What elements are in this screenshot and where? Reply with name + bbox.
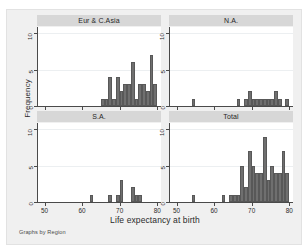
x-axis-tick-label: 60 xyxy=(79,207,86,214)
y-axis-tick-label: 10 xyxy=(159,129,166,136)
panel-title: Total xyxy=(169,111,293,122)
y-axis-tick-label: 0 xyxy=(159,202,166,205)
y-axis-tick-label: 10 xyxy=(27,33,34,40)
bar-series xyxy=(169,123,293,203)
histogram-bar xyxy=(108,195,112,202)
plot-area xyxy=(37,123,161,203)
y-axis-tick-label: 0 xyxy=(27,106,34,109)
histogram-bar xyxy=(222,195,226,202)
y-axis-tick: 10 xyxy=(166,129,169,130)
panel-grid: Eur & C.Asia0510N.A.0510S.A.051050607080… xyxy=(37,15,293,211)
x-axis-tick xyxy=(82,203,83,206)
y-axis-tick: 10 xyxy=(166,33,169,34)
x-axis-tick-label: 50 xyxy=(41,207,48,214)
x-axis-tick xyxy=(289,107,290,110)
x-axis-area: 50607080 xyxy=(37,203,161,217)
y-axis-tick-label: 0 xyxy=(159,106,166,109)
x-axis-area: 50607080 xyxy=(169,203,293,217)
x-axis-tick-label: 50 xyxy=(173,207,180,214)
y-axis-tick-label: 5 xyxy=(27,70,34,73)
x-axis-tick xyxy=(45,203,46,206)
y-axis-tick-label: 10 xyxy=(27,129,34,136)
plot-area xyxy=(169,27,293,107)
histogram-bar xyxy=(153,84,157,106)
x-axis-tick xyxy=(82,107,83,110)
x-axis-tick-label: 80 xyxy=(154,207,161,214)
x-axis-tick xyxy=(45,107,46,110)
panel-title: S.A. xyxy=(37,111,161,122)
y-axis-tick-label: 5 xyxy=(159,166,166,169)
histogram-bar xyxy=(285,99,289,106)
y-axis-tick-label: 10 xyxy=(159,33,166,40)
x-axis-tick xyxy=(214,203,215,206)
panel-s-a: S.A.051050607080 xyxy=(37,111,161,203)
x-axis-tick-label: 80 xyxy=(286,207,293,214)
bar-series xyxy=(37,123,161,203)
y-axis-tick-label: 5 xyxy=(159,70,166,73)
plot-area xyxy=(37,27,161,107)
x-axis-tick-label: 70 xyxy=(248,207,255,214)
histogram-bar xyxy=(90,195,94,202)
graph-note: Graphs by Region xyxy=(19,229,66,235)
histogram-figure: Frequency Life expectancy at birth Graph… xyxy=(0,0,308,252)
y-axis-tick: 5 xyxy=(166,70,169,71)
x-axis-tick xyxy=(177,107,178,110)
y-axis-tick: 10 xyxy=(34,129,37,130)
histogram-bar xyxy=(138,195,142,202)
graph-region: Frequency Life expectancy at birth Graph… xyxy=(6,9,302,245)
histogram-bar xyxy=(192,195,196,202)
histogram-bar xyxy=(285,173,289,202)
histogram-bar xyxy=(120,180,124,202)
y-axis-tick-label: 5 xyxy=(27,166,34,169)
y-axis-line: 0510 xyxy=(169,27,170,107)
panel-n-a: N.A.0510 xyxy=(169,15,293,107)
x-axis-tick xyxy=(252,107,253,110)
x-axis-tick xyxy=(252,203,253,206)
x-axis-tick xyxy=(214,107,215,110)
x-axis-tick-label: 60 xyxy=(211,207,218,214)
y-axis-line: 0510 xyxy=(169,123,170,203)
x-axis-tick xyxy=(120,107,121,110)
bar-series xyxy=(169,27,293,107)
y-axis-tick: 5 xyxy=(166,166,169,167)
x-axis-tick xyxy=(289,203,290,206)
bar-series xyxy=(37,27,161,107)
y-axis-tick-label: 0 xyxy=(27,202,34,205)
y-axis-line: 0510 xyxy=(37,123,38,203)
histogram-bar xyxy=(192,99,196,106)
panel-title: Eur & C.Asia xyxy=(37,15,161,26)
panel-total: Total051050607080 xyxy=(169,111,293,203)
x-axis-tick xyxy=(120,203,121,206)
histogram-bar xyxy=(278,99,282,106)
panel-title: N.A. xyxy=(169,15,293,26)
histogram-bar xyxy=(237,99,241,106)
y-axis-tick: 10 xyxy=(34,33,37,34)
x-axis-tick-label: 70 xyxy=(116,207,123,214)
x-axis-tick xyxy=(177,203,178,206)
y-axis-tick: 5 xyxy=(34,166,37,167)
y-axis-tick: 5 xyxy=(34,70,37,71)
plot-area xyxy=(169,123,293,203)
panel-eur-c-asia: Eur & C.Asia0510 xyxy=(37,15,161,107)
y-axis-line: 0510 xyxy=(37,27,38,107)
